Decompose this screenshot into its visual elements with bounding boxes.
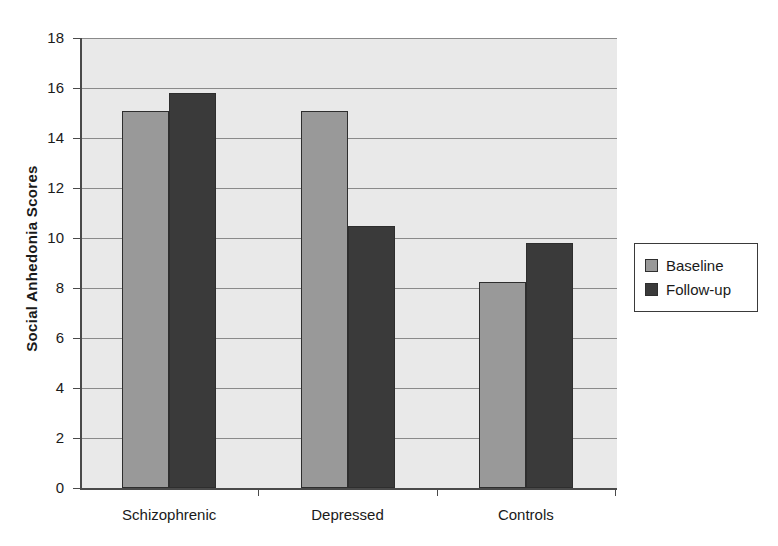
y-tick-label: 4 (8, 380, 64, 395)
y-tick-mark (73, 338, 80, 339)
y-tick-label: 6 (8, 330, 64, 345)
bar-controls-baseline (479, 282, 526, 488)
y-tick-label: 16 (8, 80, 64, 95)
y-tick-mark (73, 238, 80, 239)
y-tick-mark (73, 138, 80, 139)
y-tick-mark (73, 38, 80, 39)
legend-item-follow-up: Follow-up (645, 277, 747, 301)
y-tick-label: 14 (8, 130, 64, 145)
y-tick-mark (73, 188, 80, 189)
x-axis-label-controls: Controls (436, 506, 616, 523)
y-tick-mark (73, 388, 80, 389)
legend-label-baseline: Baseline (666, 257, 724, 274)
y-tick-label: 12 (8, 180, 64, 195)
legend-swatch-follow-up (645, 283, 658, 296)
legend-item-baseline: Baseline (645, 253, 747, 277)
x-tick-mark (615, 488, 616, 496)
bar-schizophrenic-follow-up (169, 93, 216, 488)
legend: Baseline Follow-up (634, 243, 758, 312)
bar-depressed-follow-up (348, 226, 395, 489)
y-tick-mark (73, 88, 80, 89)
y-tick-mark (73, 288, 80, 289)
bar-chart: Social Anhedonia Scores 024681012141618 … (0, 0, 778, 546)
y-tick-label: 18 (8, 30, 64, 45)
legend-label-follow-up: Follow-up (666, 281, 731, 298)
y-tick-label: 0 (8, 480, 64, 495)
bar-schizophrenic-baseline (122, 111, 169, 489)
y-tick-label: 8 (8, 280, 64, 295)
y-tick-label: 10 (8, 230, 64, 245)
x-axis-label-schizophrenic: Schizophrenic (79, 506, 259, 523)
legend-swatch-baseline (645, 259, 658, 272)
y-tick-mark (73, 438, 80, 439)
y-tick-label: 2 (8, 430, 64, 445)
bar-depressed-baseline (301, 111, 348, 489)
x-tick-mark (437, 488, 438, 496)
x-axis-label-depressed: Depressed (258, 506, 438, 523)
x-tick-mark (258, 488, 259, 496)
y-tick-mark (73, 488, 80, 489)
gridline (82, 88, 617, 89)
gridline (82, 38, 617, 39)
bar-controls-follow-up (526, 243, 573, 488)
